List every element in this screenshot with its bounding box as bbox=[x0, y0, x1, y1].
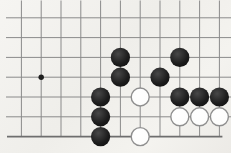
black-stone bbox=[91, 107, 110, 126]
star-point bbox=[39, 75, 44, 80]
white-stone bbox=[210, 108, 228, 126]
white-stone bbox=[171, 108, 189, 126]
black-stone bbox=[91, 87, 110, 106]
black-stone bbox=[190, 87, 209, 106]
black-stone bbox=[210, 87, 229, 106]
black-stone bbox=[111, 48, 130, 67]
white-stone bbox=[131, 88, 149, 106]
go-board-diagram bbox=[0, 0, 231, 153]
black-stone bbox=[111, 68, 130, 87]
black-stone bbox=[170, 48, 189, 67]
white-stone bbox=[131, 128, 149, 146]
black-stone bbox=[150, 68, 169, 87]
white-stone bbox=[191, 108, 209, 126]
go-board-svg bbox=[0, 0, 231, 153]
black-stone bbox=[170, 87, 189, 106]
black-stone bbox=[91, 127, 110, 146]
